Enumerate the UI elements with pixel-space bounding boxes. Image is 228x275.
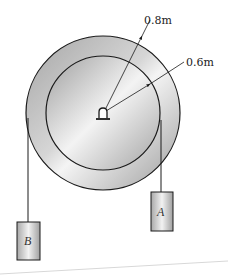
- page-edge-line: [0, 261, 228, 274]
- block-b: B: [17, 222, 40, 260]
- pulley-diagram: 0.8m 0.6m A B: [0, 0, 228, 275]
- inner-radius-label: 0.6m: [186, 56, 214, 69]
- block-a: A: [151, 192, 173, 231]
- block-a-label: A: [156, 205, 165, 219]
- outer-radius-label: 0.8m: [144, 14, 172, 27]
- block-b-label: B: [24, 234, 32, 248]
